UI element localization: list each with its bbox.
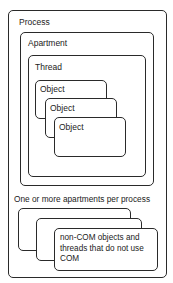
thread-label: Thread — [35, 62, 62, 72]
non-com-label: non-COM objects and threads that do not … — [60, 233, 156, 265]
apartment-label: Apartment — [28, 38, 67, 48]
object-label-1: Object — [40, 84, 65, 94]
apartments-caption: One or more apartments per process — [14, 194, 150, 204]
object-label-3: Object — [59, 122, 84, 132]
object-label-2: Object — [50, 103, 75, 113]
process-label: Process — [19, 17, 50, 27]
